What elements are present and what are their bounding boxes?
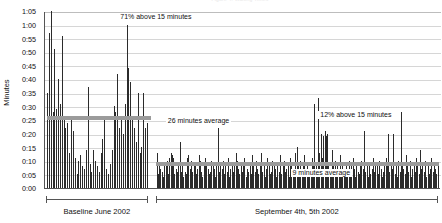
y-axis-tick-label: 0:25 — [10, 117, 36, 124]
gridline — [45, 26, 441, 27]
bracket-line — [46, 199, 148, 200]
gridline — [45, 53, 441, 54]
bar — [82, 166, 83, 188]
group-bracket — [46, 196, 148, 204]
gridline — [45, 39, 441, 40]
bar — [47, 93, 48, 188]
gridline — [45, 80, 441, 81]
bar — [104, 120, 105, 188]
gridline — [45, 94, 441, 95]
plot-area: 71% above 15 minutes12% above 15 minutes… — [44, 12, 440, 189]
bar — [69, 153, 70, 188]
group-bracket — [156, 196, 438, 204]
bar — [106, 169, 107, 188]
bar — [438, 166, 439, 188]
chart-annotation: 12% above 15 minutes — [318, 111, 393, 119]
bar — [110, 164, 111, 189]
bar — [51, 11, 52, 188]
bar — [53, 112, 54, 188]
bar — [101, 153, 102, 188]
bar — [117, 74, 118, 188]
y-axis-tick-label: 0:15 — [10, 145, 36, 152]
bar — [102, 139, 103, 188]
average-line — [156, 162, 439, 166]
bracket-cap-left — [156, 196, 157, 203]
bar — [71, 117, 72, 188]
waiting-times-chart: Figure 4. Waiting Times Minutes 0:000:05… — [0, 0, 442, 223]
gridline — [45, 66, 441, 67]
bar — [112, 150, 113, 188]
bar — [145, 128, 146, 188]
bar — [99, 172, 100, 188]
bracket-line — [156, 199, 438, 200]
y-axis-tick-label: 0:45 — [10, 63, 36, 70]
bar — [143, 93, 144, 188]
bar — [136, 142, 137, 188]
chart-annotation: 9 minutes average — [291, 169, 353, 177]
y-axis-tick-label: 0:20 — [10, 131, 36, 138]
bar — [130, 82, 131, 188]
bar — [62, 36, 63, 188]
y-axis-tick-label: 0:35 — [10, 90, 36, 97]
y-axis-tick-label: 0:30 — [10, 104, 36, 111]
y-axis-tick-label: 1:00 — [10, 22, 36, 29]
bar — [77, 174, 78, 188]
bar — [49, 33, 50, 188]
bar — [97, 166, 98, 188]
bar — [58, 79, 59, 188]
y-axis-tick-label: 0:00 — [10, 185, 36, 192]
bar — [93, 150, 94, 188]
bar — [138, 93, 139, 188]
bar — [88, 87, 89, 188]
y-axis-tick-label: 1:05 — [10, 8, 36, 15]
gridline — [45, 107, 441, 108]
bar — [64, 117, 65, 188]
bar — [119, 128, 120, 188]
y-axis-tick-label: 0:50 — [10, 49, 36, 56]
chart-annotation: 71% above 15 minutes — [118, 13, 193, 21]
bar — [75, 158, 76, 188]
bar — [86, 150, 87, 188]
bar — [127, 25, 128, 188]
bar — [128, 68, 129, 188]
y-axis-tick-label: 0:40 — [10, 76, 36, 83]
bracket-cap-right — [147, 196, 148, 203]
bracket-cap-left — [46, 196, 47, 203]
group-label: Baseline June 2002 — [46, 207, 148, 216]
chart-annotation: 26 minutes average — [166, 117, 231, 125]
bracket-cap-right — [437, 196, 438, 203]
bar — [121, 117, 122, 188]
gridline — [45, 12, 441, 13]
bar — [91, 172, 92, 188]
bar — [56, 109, 57, 188]
y-axis-tick-label: 0:55 — [10, 36, 36, 43]
bar — [147, 123, 148, 188]
bar — [132, 120, 133, 188]
bar — [140, 153, 141, 188]
y-axis-tick-labels: 0:000:050:100:150:200:250:300:350:400:45… — [6, 0, 36, 223]
y-axis-tick-label: 0:05 — [10, 172, 36, 179]
bar — [108, 174, 109, 188]
bar — [84, 169, 85, 188]
bar — [95, 161, 96, 188]
chart-title: Figure 4. Waiting Times — [150, 0, 330, 2]
bar — [90, 164, 91, 189]
group-label: September 4th, 5th 2002 — [156, 207, 438, 216]
bar — [73, 131, 74, 188]
bar — [134, 128, 135, 188]
average-line — [47, 116, 151, 120]
y-axis-tick-label: 0:10 — [10, 158, 36, 165]
bar — [115, 112, 116, 188]
bar — [123, 134, 124, 188]
bar — [65, 128, 66, 188]
bar — [78, 161, 79, 188]
bar — [67, 123, 68, 188]
bar — [141, 147, 142, 188]
bar — [80, 155, 81, 188]
